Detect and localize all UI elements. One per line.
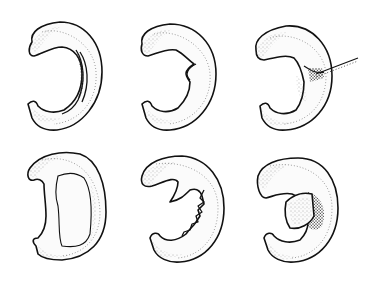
panel-flap-tear	[246, 142, 369, 284]
meniscus-tear-illustration	[0, 0, 370, 285]
meniscus-drawing	[2, 142, 125, 284]
panel-radial-tear	[124, 2, 247, 144]
panel-longitudinal-tear	[2, 2, 125, 144]
meniscus-drawing	[2, 2, 125, 144]
meniscus-drawing	[246, 2, 369, 144]
meniscus-drawing	[124, 2, 247, 144]
panel-horizontal-tear-probe	[246, 2, 369, 144]
panel-degenerative-tear	[124, 142, 247, 284]
meniscus-drawing	[124, 142, 247, 284]
meniscus-drawing	[246, 142, 369, 284]
panel-bucket-handle-tear	[2, 142, 125, 284]
